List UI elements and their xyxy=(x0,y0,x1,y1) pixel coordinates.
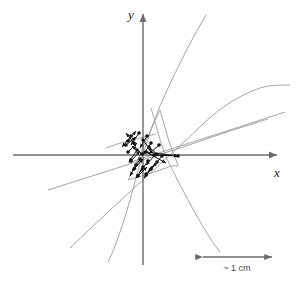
curve-line xyxy=(70,85,290,248)
x-axis-label: x xyxy=(273,165,280,180)
data-point xyxy=(146,159,150,163)
scale-bar-label: ~ 1 cm xyxy=(223,263,250,273)
figure-container: x y ~ 1 cm xyxy=(0,0,298,284)
data-point xyxy=(149,141,153,145)
data-point xyxy=(149,167,153,171)
data-point xyxy=(145,134,149,138)
vector-arrow xyxy=(130,165,136,176)
data-point xyxy=(135,148,139,152)
data-point xyxy=(176,154,180,158)
curve-line xyxy=(108,15,206,262)
data-point xyxy=(132,167,136,171)
data-point xyxy=(136,174,140,178)
data-point xyxy=(126,139,130,143)
data-point xyxy=(144,172,148,176)
data-point xyxy=(129,159,133,163)
data-point xyxy=(140,152,144,156)
data-point xyxy=(126,150,130,154)
data-point xyxy=(129,134,133,138)
data-point xyxy=(141,165,145,169)
plot-svg: x y ~ 1 cm xyxy=(0,0,298,284)
data-point xyxy=(141,138,145,142)
data-point xyxy=(144,150,148,154)
data-point xyxy=(160,154,164,158)
data-point xyxy=(134,163,138,167)
data-point xyxy=(132,141,136,145)
data-point xyxy=(153,153,157,157)
data-point xyxy=(155,160,159,164)
data-point xyxy=(147,145,151,149)
data-point xyxy=(138,157,142,161)
data-point xyxy=(137,131,141,135)
curve-lines-group xyxy=(48,15,290,262)
data-point xyxy=(124,143,128,147)
scale-bar: ~ 1 cm xyxy=(203,257,272,273)
curve-line xyxy=(151,108,220,252)
y-axis-label: y xyxy=(126,7,134,22)
data-point xyxy=(157,143,161,147)
